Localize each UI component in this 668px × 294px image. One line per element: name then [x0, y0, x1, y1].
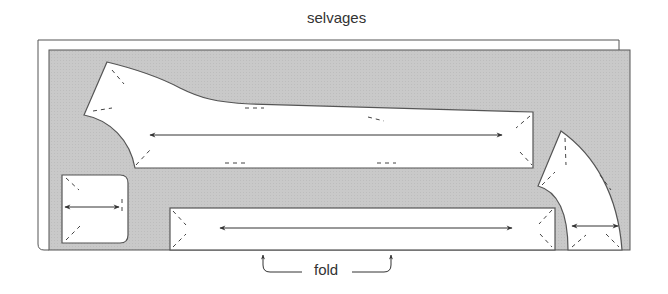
long-rectangle-piece: [170, 208, 555, 250]
small-square-piece: [62, 175, 128, 243]
selvages-label: selvages: [307, 10, 366, 25]
pattern-layout-diagram: [0, 0, 668, 294]
fold-label: fold: [314, 262, 338, 277]
